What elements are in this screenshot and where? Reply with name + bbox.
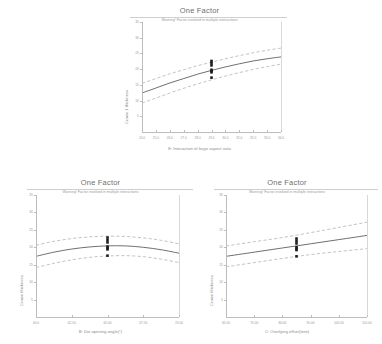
x-axis-tickmark [254, 315, 255, 318]
y-axis-tick: 10 [20, 280, 33, 284]
x-axis-tick: 34.0 [278, 136, 284, 140]
x-axis-tick: 65.00 [104, 321, 112, 325]
y-axis-tick: 30 [20, 210, 33, 214]
y-axis-tick: 5 [210, 298, 223, 302]
chart-subtitle: Warning! Factor involved in multiple int… [8, 190, 193, 194]
series-confidence-band [226, 249, 367, 267]
x-axis-tick: 27.0 [181, 136, 187, 140]
x-axis-tickmark [198, 130, 199, 133]
x-axis-label: B: Die opening angle(°) [8, 329, 193, 334]
plot-area [142, 22, 282, 132]
x-axis-tickmark [281, 130, 282, 133]
x-axis-line [36, 317, 179, 318]
y-axis-tick: 5 [126, 114, 139, 118]
chart-title: One Factor [8, 178, 193, 187]
one-factor-chart: One Factor Warning! Factor involved in m… [112, 6, 287, 164]
x-axis-tick: 33.0 [264, 136, 270, 140]
y-axis-tick: 15 [126, 83, 139, 87]
y-axis-label: Crown 1 thickness [124, 90, 129, 124]
chart-panel-bottom-left: One Factor Warning! Factor involved in m… [8, 178, 193, 340]
y-axis-tick: 10 [210, 280, 223, 284]
x-axis-tick: 80.00 [278, 321, 286, 325]
x-axis-tickmark [212, 130, 213, 133]
y-axis-tick: 30 [210, 210, 223, 214]
series-canvas [226, 195, 367, 317]
y-axis-tick: 15 [210, 263, 223, 267]
x-axis-tickmark [267, 130, 268, 133]
design-point [106, 236, 109, 239]
y-axis-tick: 25 [210, 228, 223, 232]
y-axis-tick: 35 [126, 20, 139, 24]
x-axis-tick: 28.0 [194, 136, 200, 140]
x-axis-tick: 60.0 [33, 321, 39, 325]
x-axis-tickmark [170, 130, 171, 133]
x-axis-label: E: Interaction of large aspect ratio [112, 146, 287, 151]
x-axis-tickmark [156, 130, 157, 133]
plot-area [226, 195, 368, 317]
y-axis-tick: 20 [20, 245, 33, 249]
x-axis-tickmark [311, 315, 312, 318]
x-axis-tickmark [142, 130, 143, 133]
y-axis-tick: 10 [126, 99, 139, 103]
x-axis-label: C: Overlying offset(mm) [196, 329, 378, 334]
x-axis-tick: 26.0 [167, 136, 173, 140]
x-axis-tick: 24.0 [139, 136, 145, 140]
y-axis-tick: 20 [126, 67, 139, 71]
chart-title: One Factor [196, 178, 378, 187]
x-axis-tickmark [339, 315, 340, 318]
x-axis-tickmark [253, 130, 254, 133]
x-axis-tickmark [225, 130, 226, 133]
x-axis-tickmark [282, 315, 283, 318]
design-point [210, 76, 213, 79]
x-axis-tickmark [226, 315, 227, 318]
one-factor-chart: One Factor Warning! Factor involved in m… [196, 178, 378, 340]
y-axis-line [142, 22, 143, 132]
series-confidence-band [36, 256, 179, 268]
design-point [210, 64, 213, 67]
x-axis-tick: 25.0 [153, 136, 159, 140]
x-axis-tick: 29.0 [208, 136, 214, 140]
y-axis-tick: 30 [126, 36, 139, 40]
y-axis-tick: 25 [126, 51, 139, 55]
design-point [106, 241, 109, 244]
y-axis-tick: 15 [20, 263, 33, 267]
x-axis-tick: 31.0 [236, 136, 242, 140]
design-point [295, 242, 298, 245]
x-axis-tickmark [367, 315, 368, 318]
x-axis-tick: 60.00 [222, 321, 230, 325]
series-canvas [36, 195, 179, 317]
y-axis-tick: 35 [20, 193, 33, 197]
y-axis-tick: 20 [210, 245, 223, 249]
y-axis-line [36, 195, 37, 317]
design-point [106, 239, 109, 242]
x-axis-tick: 70.00 [250, 321, 258, 325]
chart-subtitle: Warning! Factor involved in multiple int… [196, 190, 378, 194]
y-axis-line [226, 195, 227, 317]
x-axis-tickmark [179, 315, 180, 318]
x-axis-line [142, 132, 281, 133]
design-point [106, 248, 109, 251]
x-axis-tickmark [239, 130, 240, 133]
x-axis-tickmark [72, 315, 73, 318]
one-factor-chart: One Factor Warning! Factor involved in m… [8, 178, 193, 340]
chart-panel-bottom-right: One Factor Warning! Factor involved in m… [196, 178, 378, 340]
y-axis-tick: 35 [210, 193, 223, 197]
design-point [295, 240, 298, 243]
x-axis-tick: 30.0 [222, 136, 228, 140]
design-point [295, 249, 298, 252]
x-axis-tick: 110.00 [362, 321, 372, 325]
design-point [295, 255, 298, 258]
x-axis-tick: 70.00 [175, 321, 183, 325]
x-axis-tick: 90.00 [307, 321, 315, 325]
x-axis-tick: 32.0 [250, 136, 256, 140]
x-axis-tickmark [184, 130, 185, 133]
y-axis-tick: 25 [20, 228, 33, 232]
design-point [106, 254, 109, 257]
y-axis-tick: 5 [20, 298, 33, 302]
x-axis-tick: 62.50 [68, 321, 76, 325]
design-point [295, 237, 298, 240]
x-axis-tickmark [36, 315, 37, 318]
x-axis-line [226, 317, 367, 318]
x-axis-tick: 100.00 [334, 321, 344, 325]
plot-area [36, 195, 180, 317]
